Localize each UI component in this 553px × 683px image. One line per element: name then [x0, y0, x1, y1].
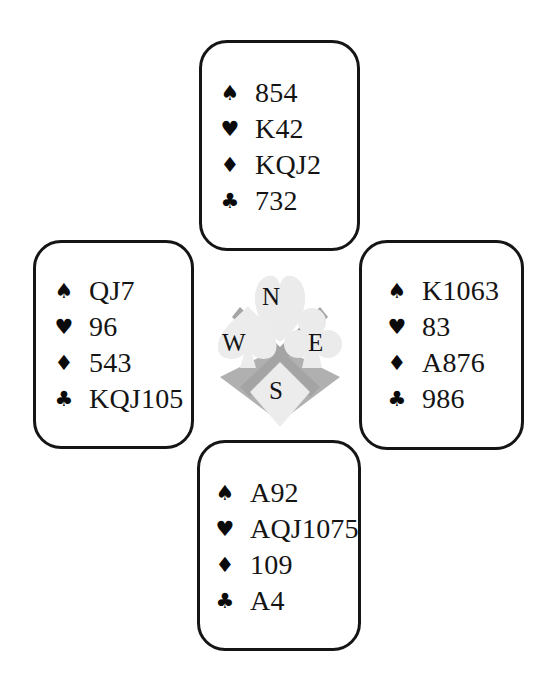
heart-icon: ♥ [53, 317, 75, 338]
east-hearts-cards: 83 [422, 313, 450, 341]
east-hand: ♠ K1063 ♥ 83 ♦ A876 ♣ 986 [359, 240, 524, 450]
south-diamonds-cards: 109 [250, 551, 293, 579]
north-clubs-cards: 732 [255, 187, 298, 215]
south-hand: ♠ A92 ♥ AQJ1075 ♦ 109 ♣ A4 [197, 440, 361, 651]
east-clubs-cards: 986 [422, 385, 465, 413]
south-diamonds-row: ♦ 109 [214, 547, 293, 583]
spade-icon: ♠ [219, 83, 241, 104]
diamond-icon: ♦ [53, 353, 75, 374]
north-clubs-row: ♣ 732 [219, 183, 298, 219]
spade-icon: ♠ [386, 281, 408, 302]
south-clubs-cards: A4 [250, 587, 285, 615]
north-hearts-cards: K42 [255, 115, 304, 143]
south-hearts-cards: AQJ1075 [250, 515, 359, 543]
north-hand: ♠ 854 ♥ K42 ♦ KQJ2 ♣ 732 [199, 40, 360, 251]
heart-icon: ♥ [219, 119, 241, 140]
south-clubs-row: ♣ A4 [214, 583, 285, 619]
west-spades-row: ♠ QJ7 [53, 273, 135, 309]
club-icon: ♣ [386, 389, 408, 410]
west-hearts-cards: 96 [89, 313, 117, 341]
club-icon: ♣ [214, 591, 236, 612]
west-diamonds-row: ♦ 543 [53, 345, 132, 381]
north-diamonds-row: ♦ KQJ2 [219, 147, 321, 183]
east-diamonds-row: ♦ A876 [386, 345, 485, 381]
compass-north-label: N [262, 284, 280, 309]
north-diamonds-cards: KQJ2 [255, 151, 321, 179]
spade-icon: ♠ [214, 483, 236, 504]
east-clubs-row: ♣ 986 [386, 381, 465, 417]
north-spades-row: ♠ 854 [219, 75, 298, 111]
heart-icon: ♥ [386, 317, 408, 338]
west-hand: ♠ QJ7 ♥ 96 ♦ 543 ♣ KQJ105 [33, 240, 194, 449]
heart-icon: ♥ [214, 519, 236, 540]
south-spades-cards: A92 [250, 479, 299, 507]
south-spades-row: ♠ A92 [214, 475, 299, 511]
south-hearts-row: ♥ AQJ1075 [214, 511, 359, 547]
west-clubs-cards: KQJ105 [89, 385, 184, 413]
west-spades-cards: QJ7 [89, 277, 135, 305]
compass-logo: N W E S [210, 262, 350, 437]
compass-east-label: E [308, 330, 323, 355]
club-icon: ♣ [53, 389, 75, 410]
compass-west-label: W [222, 330, 246, 355]
spade-icon: ♠ [53, 281, 75, 302]
east-spades-row: ♠ K1063 [386, 273, 499, 309]
diamond-icon: ♦ [219, 155, 241, 176]
north-hearts-row: ♥ K42 [219, 111, 304, 147]
west-clubs-row: ♣ KQJ105 [53, 381, 184, 417]
club-icon: ♣ [219, 191, 241, 212]
north-spades-cards: 854 [255, 79, 298, 107]
diamond-icon: ♦ [386, 353, 408, 374]
east-hearts-row: ♥ 83 [386, 309, 450, 345]
east-diamonds-cards: A876 [422, 349, 485, 377]
west-hearts-row: ♥ 96 [53, 309, 117, 345]
east-spades-cards: K1063 [422, 277, 499, 305]
diamond-icon: ♦ [214, 555, 236, 576]
compass-south-label: S [269, 378, 283, 403]
west-diamonds-cards: 543 [89, 349, 132, 377]
